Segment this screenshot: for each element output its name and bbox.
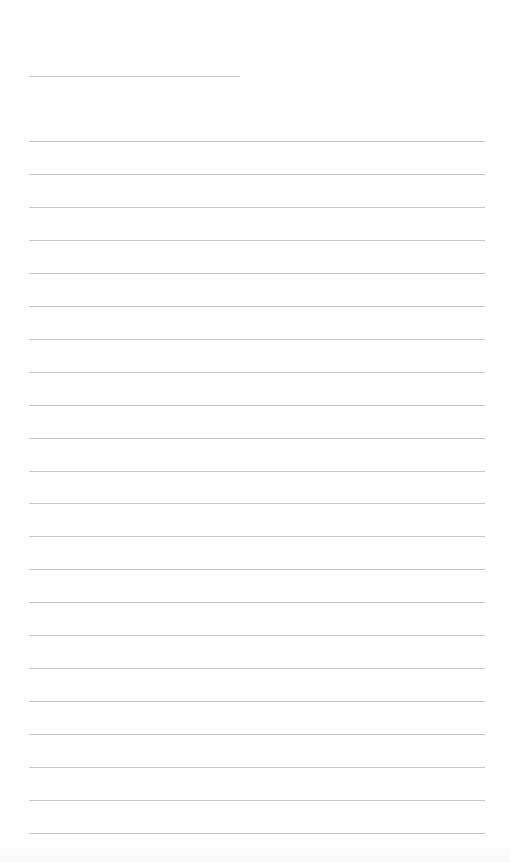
ruled-line	[29, 240, 485, 241]
ruled-line	[29, 734, 485, 735]
ruled-line	[29, 273, 485, 274]
ruled-line	[29, 405, 485, 406]
ruled-line	[29, 372, 485, 373]
ruled-line	[29, 438, 485, 439]
ruled-line	[29, 141, 485, 142]
ruled-line	[29, 471, 485, 472]
ruled-page	[0, 0, 510, 862]
ruled-line	[29, 569, 485, 570]
header-rule	[29, 76, 240, 77]
ruled-line	[29, 207, 485, 208]
ruled-line	[29, 536, 485, 537]
ruled-line	[29, 602, 485, 603]
ruled-line	[29, 833, 485, 834]
ruled-line	[29, 701, 485, 702]
ruled-line	[29, 174, 485, 175]
ruled-line	[29, 668, 485, 669]
ruled-line	[29, 800, 485, 801]
ruled-line	[29, 306, 485, 307]
ruled-line	[29, 767, 485, 768]
ruled-line	[29, 635, 485, 636]
ruled-line	[29, 503, 485, 504]
ruled-line	[29, 339, 485, 340]
bottom-edge-shadow	[0, 844, 510, 862]
